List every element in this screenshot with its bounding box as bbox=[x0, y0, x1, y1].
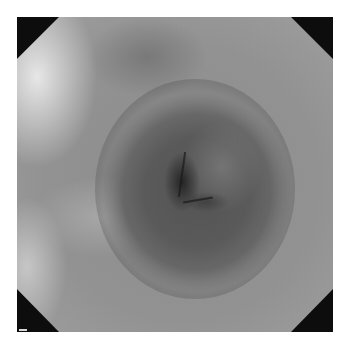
mucosal-fold bbox=[178, 152, 186, 197]
lumen bbox=[95, 79, 295, 299]
endoscope-frame bbox=[17, 17, 333, 332]
frame-marker bbox=[19, 329, 27, 331]
endoscopic-image bbox=[17, 17, 333, 332]
mucosal-fold bbox=[183, 196, 213, 203]
